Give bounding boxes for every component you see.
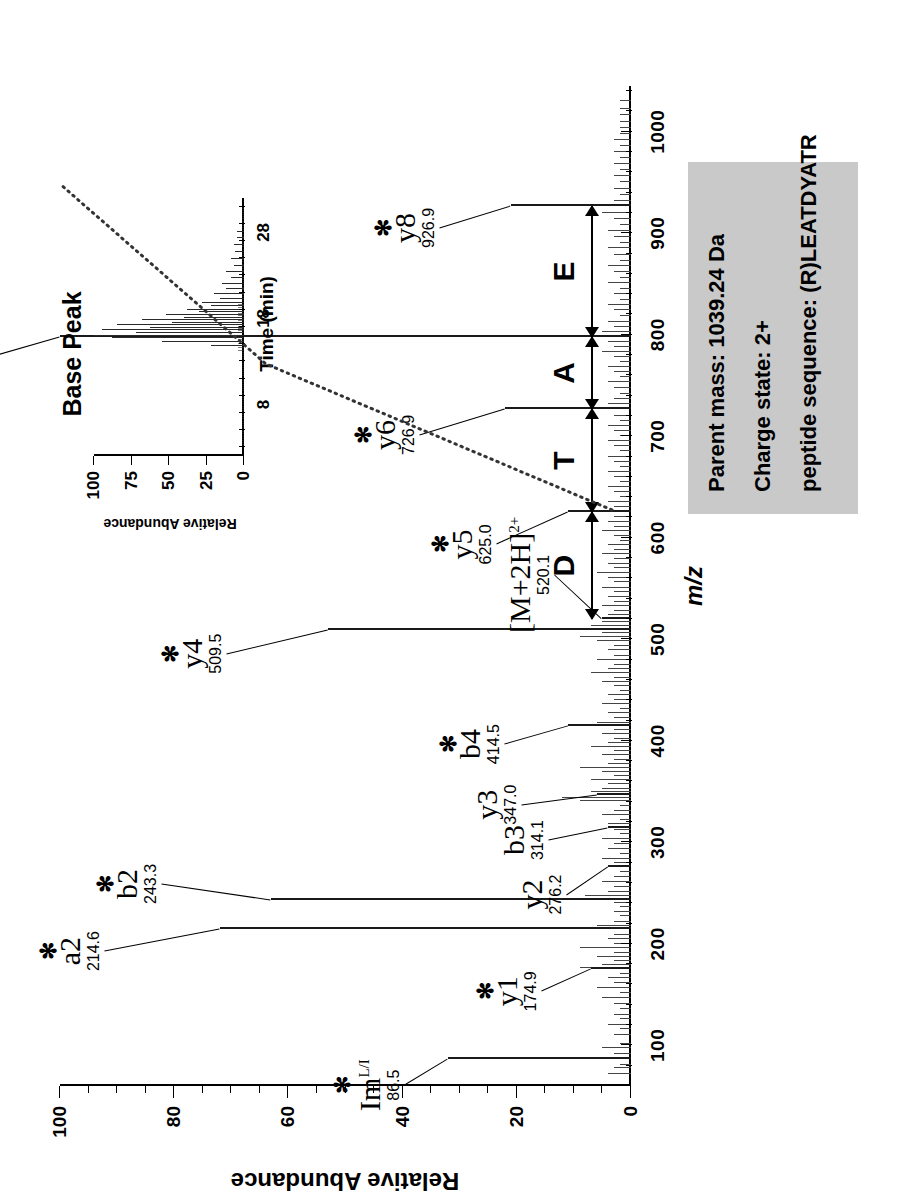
noise-peak <box>614 876 631 877</box>
charge-state-label: Charge state: 2+ <box>750 184 776 492</box>
annotation-leader-line <box>162 883 271 900</box>
noise-peak <box>614 356 631 357</box>
x-tick-minor <box>626 760 632 761</box>
y-tick-minor <box>544 1086 545 1093</box>
noise-peak <box>614 175 631 176</box>
noise-peak <box>620 871 631 872</box>
noise-peak <box>597 572 631 573</box>
noise-peak <box>614 1034 631 1035</box>
peak-mz-value: 414.5 <box>486 724 502 764</box>
x-tick-label: 500 <box>647 623 669 656</box>
noise-peak <box>620 133 631 134</box>
x-tick-minor <box>626 476 632 477</box>
x-tick-minor <box>626 354 632 355</box>
noise-peak <box>608 977 631 978</box>
noise-peak <box>602 530 631 531</box>
noise-peak <box>614 738 631 739</box>
noise-peak <box>597 925 631 926</box>
peak-label: b2 <box>112 864 142 904</box>
noise-peak <box>608 694 631 695</box>
x-tick-major <box>621 131 632 132</box>
noise-peak <box>614 163 631 164</box>
peptide-sequence-label: peptide sequence: (R)LEATDYATR <box>796 184 822 492</box>
noise-peak <box>597 640 631 641</box>
x-tick-minor <box>626 171 632 172</box>
noise-peak <box>591 625 631 626</box>
noise-peak <box>620 181 631 182</box>
noise-peak <box>620 114 631 115</box>
noise-peak <box>620 277 631 278</box>
x-tick-minor <box>626 862 632 863</box>
annotated-peak <box>608 826 631 828</box>
x-tick-minor <box>626 801 632 802</box>
x-tick-minor <box>626 598 632 599</box>
y-tick-minor <box>230 1086 231 1093</box>
annotation-leader-line <box>405 1059 449 1086</box>
noise-peak <box>602 1047 631 1048</box>
noise-peak <box>614 535 631 536</box>
x-tick-minor <box>626 456 632 457</box>
noise-peak <box>620 361 631 362</box>
x-tick-label: 200 <box>647 927 669 960</box>
noise-peak <box>602 733 631 734</box>
annotated-peak <box>448 1057 631 1059</box>
noise-peak <box>620 481 631 482</box>
noise-peak <box>614 718 631 719</box>
peak-mz-value: 276.2 <box>548 874 564 914</box>
x-tick-minor <box>626 1024 632 1025</box>
x-tick-minor <box>626 618 632 619</box>
noise-peak <box>597 987 631 988</box>
x-tick-minor <box>626 496 632 497</box>
x-tick-minor <box>626 557 632 558</box>
x-tick-label: 1000 <box>647 110 669 154</box>
x-tick-major <box>621 334 632 335</box>
noise-peak <box>620 376 631 377</box>
x-tick-label: 300 <box>647 826 669 859</box>
noise-peak <box>608 848 631 849</box>
noise-peak <box>614 886 631 887</box>
x-tick-minor <box>626 720 632 721</box>
figure-stage: 1002003004005006007008009001000 02040608… <box>0 0 912 1204</box>
y-tick-major <box>516 1086 517 1098</box>
x-tick-minor <box>626 110 632 111</box>
x-tick-major <box>621 841 632 842</box>
x-tick-minor <box>626 1004 632 1005</box>
x-tick-label: 900 <box>647 217 669 250</box>
x-tick-major <box>621 435 632 436</box>
y-tick-label: 60 <box>277 1100 299 1127</box>
noise-peak <box>614 346 631 347</box>
noise-peak <box>614 1014 631 1015</box>
noise-peak <box>620 127 631 128</box>
y-tick-minor <box>259 1086 260 1093</box>
noise-peak <box>614 677 631 678</box>
annotation-leader-line <box>555 575 603 620</box>
annotated-peak <box>328 628 631 630</box>
peak-label: b4 <box>455 724 485 764</box>
x-tick-minor <box>626 395 632 396</box>
noise-peak <box>614 729 631 730</box>
noise-peak <box>620 145 631 146</box>
noise-peak <box>614 371 631 372</box>
annotated-peak <box>591 967 631 969</box>
x-tick-minor <box>626 293 632 294</box>
noise-peak <box>608 596 631 597</box>
parent-mass-label: Parent mass: 1039.24 Da <box>704 184 730 492</box>
peak-label: b3 <box>499 820 529 860</box>
noise-peak <box>602 553 631 554</box>
noise-peak <box>608 544 631 545</box>
noise-peak <box>608 1073 631 1074</box>
noise-peak <box>614 934 631 935</box>
noise-peak <box>614 398 631 399</box>
peak-label: y4 <box>177 634 207 674</box>
noise-peak <box>620 466 631 467</box>
noise-peak <box>608 938 631 939</box>
ladder-arrow <box>591 512 593 618</box>
noise-peak <box>608 521 631 522</box>
peak-annotation: b3314.1 <box>499 820 546 860</box>
peak-label: y3 <box>472 785 502 825</box>
noise-peak <box>602 964 631 965</box>
x-tick-minor <box>626 923 632 924</box>
noise-peak <box>620 100 631 101</box>
noise-peak <box>608 823 631 824</box>
noise-peak <box>614 461 631 462</box>
